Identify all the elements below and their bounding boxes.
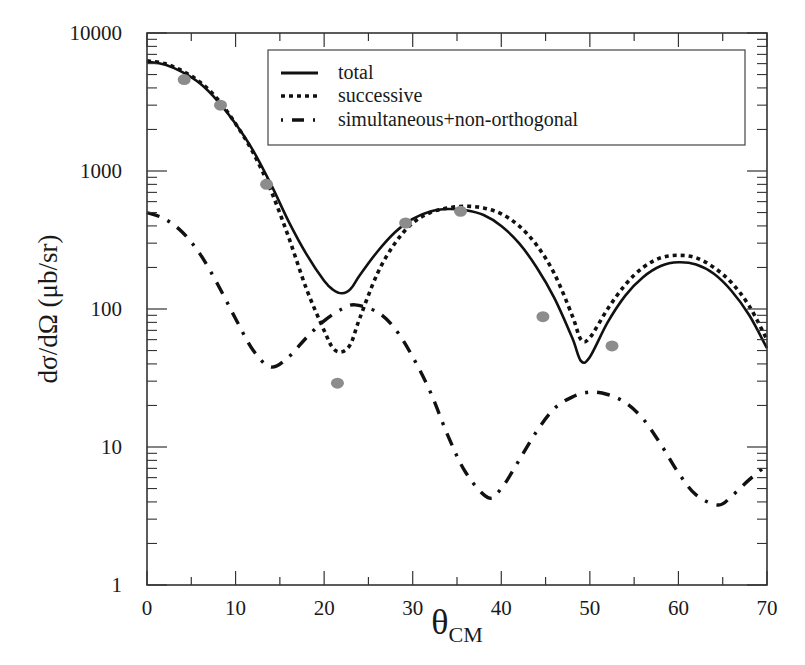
x-tick-label: 60 <box>668 596 689 620</box>
data-point-marker <box>454 206 467 217</box>
x-axis-label-main: θ <box>431 602 448 642</box>
y-tick-label: 10 <box>101 435 122 459</box>
chart: 010203040506070110100100010000 dσ/dΩ (μb… <box>0 0 805 665</box>
x-axis-label-subscript: CM <box>449 622 483 647</box>
x-tick-label: 40 <box>491 596 512 620</box>
x-tick-label: 30 <box>402 596 423 620</box>
data-point-marker <box>260 179 273 190</box>
legend-label-simultaneous: simultaneous+non-orthogonal <box>338 108 579 131</box>
y-axis-label: dσ/dΩ (μb/sr) <box>33 235 63 384</box>
x-axis-label: θCM <box>431 602 483 647</box>
data-point-marker <box>214 100 227 111</box>
legend-label-total: total <box>338 61 374 83</box>
data-point-marker <box>536 311 549 322</box>
legend-label-successive: successive <box>338 84 423 106</box>
y-tick-label: 100 <box>91 297 123 321</box>
data-point-marker <box>606 340 619 351</box>
legend: total successive simultaneous+non-orthog… <box>268 50 745 145</box>
y-tick-label: 10000 <box>70 21 123 45</box>
data-point-marker <box>178 74 191 85</box>
chart-svg: 010203040506070110100100010000 dσ/dΩ (μb… <box>0 0 805 665</box>
data-point-marker <box>331 378 344 389</box>
x-tick-label: 20 <box>314 596 335 620</box>
data-point-marker <box>399 217 412 228</box>
y-tick-label: 1 <box>112 573 123 597</box>
x-tick-label: 10 <box>225 596 246 620</box>
y-tick-label: 1000 <box>80 159 122 183</box>
x-tick-label: 50 <box>579 596 600 620</box>
x-tick-label: 70 <box>757 596 778 620</box>
x-tick-label: 0 <box>142 596 153 620</box>
